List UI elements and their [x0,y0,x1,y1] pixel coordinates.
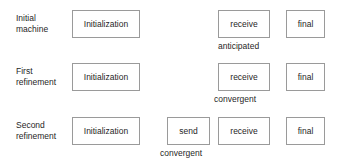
node-receive-row1: receive [218,10,270,38]
node-final-row2: final [286,63,325,91]
node-initialization-row1: Initialization [72,10,140,38]
node-label: receive [230,126,257,136]
node-receive-row2: receive [218,63,270,91]
node-label: receive [230,72,257,82]
node-label: final [298,19,314,29]
node-initialization-row2: Initialization [72,63,140,91]
node-caption-convergent-row3: convergent [160,148,202,158]
diagram-row-first-refinement: First refinement Initialization receive … [0,55,338,110]
node-initialization-row3: Initialization [72,117,140,145]
node-caption-convergent-row2: convergent [214,94,256,104]
node-label: send [179,126,197,136]
node-label: Initialization [84,72,128,82]
node-label: Initialization [84,126,128,136]
node-final-row1: final [286,10,325,38]
refinement-diagram: Initial machine Initialization receive a… [0,0,338,164]
diagram-row-initial-machine: Initial machine Initialization receive a… [0,0,338,55]
node-receive-row3: receive [218,117,270,145]
node-label: final [298,72,314,82]
node-send-row3: send [167,117,210,145]
node-label: receive [230,19,257,29]
row-label-second-refinement: Second refinement [16,120,56,141]
node-label: final [298,126,314,136]
node-caption-anticipated-row1: anticipated [218,41,259,51]
node-label: Initialization [84,19,128,29]
diagram-row-second-refinement: Second refinement Initialization send co… [0,110,338,164]
row-label-first-refinement: First refinement [16,66,56,87]
row-label-initial-machine: Initial machine [16,13,48,34]
node-final-row3: final [286,117,325,145]
